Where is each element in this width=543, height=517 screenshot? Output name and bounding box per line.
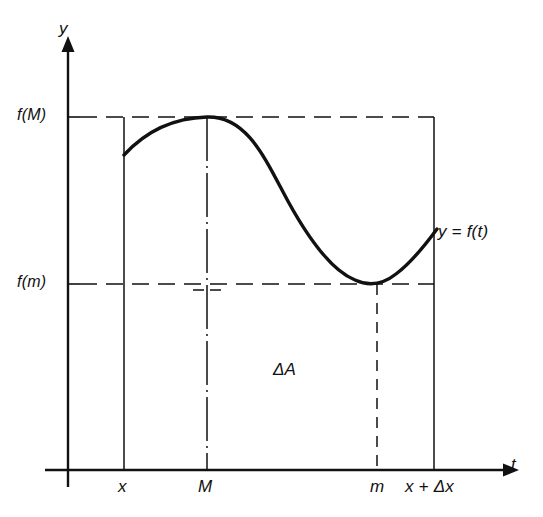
figure-container: y t f(M) f(m) x M m x + Δx y = f(t) ΔA: [0, 0, 543, 517]
x-axis-label: t: [511, 455, 516, 475]
y-tick-label-fm: f(m): [17, 273, 46, 291]
function-curve-group: [124, 117, 437, 284]
x-tick-label-m: m: [370, 477, 384, 497]
x-tick-label-x: x: [118, 477, 127, 497]
y-tick-marks: [68, 117, 80, 284]
y-axis-label: y: [59, 19, 68, 39]
diagram-canvas: [0, 0, 543, 517]
curve-label: y = f(t): [438, 222, 488, 242]
axes-group: [45, 36, 519, 487]
area-rectangle: [124, 117, 434, 470]
guide-M-vertical: [193, 117, 221, 470]
x-tick-label-M: M: [198, 477, 212, 497]
function-curve: [124, 117, 437, 284]
area-label: ΔA: [273, 360, 296, 380]
y-tick-label-fM: f(M): [17, 106, 46, 124]
x-tick-label-x-plus-delta-x: x + Δx: [405, 477, 454, 497]
